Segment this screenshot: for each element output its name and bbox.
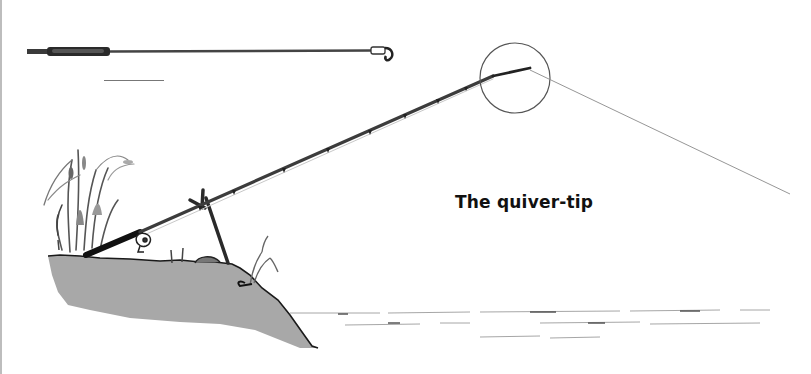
fishing-line xyxy=(530,70,790,194)
caption-title: The quiver-tip xyxy=(455,192,593,212)
illustration-frame: The quiver-tip xyxy=(0,0,811,374)
rod-icon xyxy=(86,68,530,255)
detached-quiver-tip-icon xyxy=(27,47,392,60)
reeds-icon xyxy=(44,150,134,252)
water-surface-icon xyxy=(290,310,770,338)
reel-icon xyxy=(136,233,150,252)
riverbank-icon xyxy=(48,255,318,348)
quiver-tip-illustration xyxy=(0,0,811,374)
